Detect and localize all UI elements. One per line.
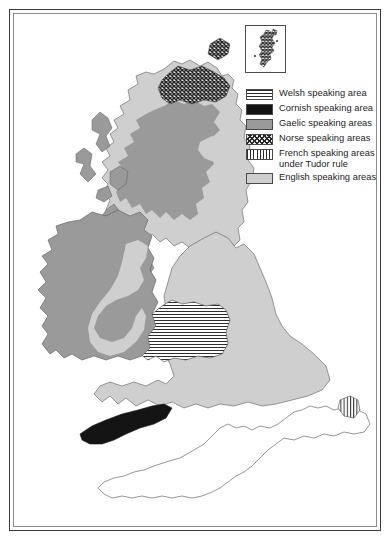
region-hebrides-south <box>76 148 96 182</box>
inset-islet-a <box>276 40 278 42</box>
map-legend: Welsh speaking area Cornish speaking are… <box>246 88 378 187</box>
legend-swatch-gaelic <box>246 119 273 130</box>
legend-swatch-english <box>246 173 273 184</box>
region-group-ireland <box>38 210 158 360</box>
legend-label-norse: Norse speaking areas <box>279 133 370 144</box>
legend-item-cornish: Cornish speaking area <box>246 103 378 115</box>
legend-label-cornish: Cornish speaking area <box>279 103 373 114</box>
legend-swatch-cornish <box>246 104 273 115</box>
legend-item-norse: Norse speaking areas <box>246 133 378 145</box>
region-hebrides <box>92 112 112 152</box>
legend-item-gaelic: Gaelic speaking areas <box>246 118 378 130</box>
map-page: Welsh speaking area Cornish speaking are… <box>0 0 391 541</box>
legend-item-welsh: Welsh speaking area <box>246 88 378 100</box>
legend-item-french: French speaking areas under Tudor rule <box>246 148 378 169</box>
region-cornwall <box>80 404 172 444</box>
inset-shetland-main <box>259 30 275 67</box>
inset-shetland-north <box>272 29 277 35</box>
region-orkney-islands <box>208 38 230 60</box>
legend-label-english: English speaking areas <box>279 172 376 183</box>
legend-label-french: French speaking areas under Tudor rule <box>279 148 375 169</box>
legend-label-gaelic: Gaelic speaking areas <box>279 118 372 129</box>
legend-swatch-norse <box>246 134 273 145</box>
northern-isles-inset <box>245 25 286 73</box>
legend-item-english: English speaking areas <box>246 172 378 184</box>
legend-swatch-welsh <box>246 89 273 100</box>
inset-graphic <box>246 26 285 72</box>
legend-label-welsh: Welsh speaking area <box>279 88 367 99</box>
legend-swatch-french <box>246 149 273 160</box>
inset-islet-b <box>254 55 256 57</box>
